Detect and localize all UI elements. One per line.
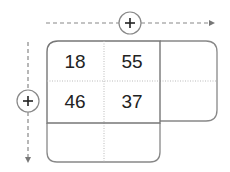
- add-row-button[interactable]: [17, 90, 39, 112]
- cell-r2c1[interactable]: 46: [47, 92, 103, 112]
- table-expand-diagram: [0, 0, 230, 172]
- cell-r1c2[interactable]: 55: [104, 52, 160, 72]
- cell-r1c1[interactable]: 18: [47, 52, 103, 72]
- ghost-column[interactable]: [160, 41, 217, 121]
- cell-r2c2[interactable]: 37: [104, 92, 160, 112]
- ghost-row[interactable]: [47, 123, 160, 162]
- add-column-button[interactable]: [119, 12, 141, 34]
